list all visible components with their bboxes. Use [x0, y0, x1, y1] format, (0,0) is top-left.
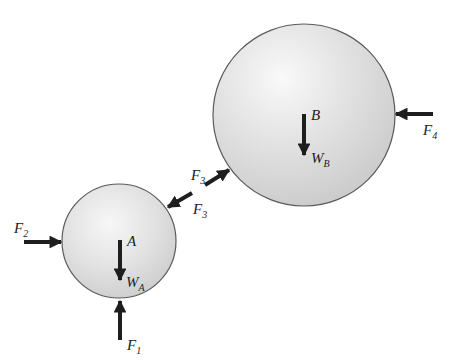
force-f2-label: F2: [13, 220, 28, 239]
free-body-diagram: A WA B WB F1 F2 F3 F3 F4: [0, 0, 450, 363]
force-f3-on-b-label: F3: [190, 167, 205, 186]
diagram-svg: A WA B WB F1 F2 F3 F3 F4: [0, 0, 450, 363]
body-a-label: A: [126, 233, 137, 249]
force-f3-on-b-arrow-icon: [205, 170, 229, 185]
force-f4-label: F4: [422, 122, 437, 141]
force-f1-label: F1: [126, 337, 141, 356]
force-f3-on-a-arrow-icon: [168, 193, 192, 207]
force-f3-on-a-label: F3: [192, 201, 207, 220]
body-b-label: B: [311, 107, 320, 123]
